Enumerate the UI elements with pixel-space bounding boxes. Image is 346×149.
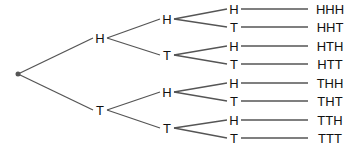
node-level3-t: T (230, 94, 238, 109)
edge-l1-to-l2 (107, 38, 160, 55)
edge-l2-to-l3 (174, 55, 227, 64)
outcome-label: HHH (316, 2, 344, 17)
edge-l2-to-l3 (174, 92, 227, 101)
node-level2-h: H (162, 12, 171, 27)
outcome-label: THT (317, 94, 342, 109)
tree-nodes: HTHTHTHHHHTHHTHHTHTHTTHTHHTTHTHTTHTTTT (16, 2, 345, 146)
outcome-label: TTH (317, 113, 342, 128)
tree-edges (18, 9, 308, 138)
probability-tree-diagram: HTHTHTHHHHTHHTHHTHTHTTHTHHTTHTHTTHTTTT (0, 0, 346, 149)
node-level3-h: H (229, 39, 238, 54)
node-level3-t: T (230, 131, 238, 146)
edge-l2-to-l3 (174, 83, 227, 92)
outcome-label: HTH (317, 39, 344, 54)
edge-l2-to-l3 (174, 46, 227, 55)
edge-l2-to-l3 (174, 120, 227, 128)
edge-l1-to-l2 (107, 19, 160, 38)
edge-l2-to-l3 (174, 9, 227, 19)
node-level1-t: T (96, 103, 104, 118)
edge-root-to-l1 (18, 74, 93, 110)
node-level2-h: H (162, 85, 171, 100)
edge-l2-to-l3 (174, 128, 227, 138)
node-level3-t: T (230, 57, 238, 72)
edge-root-to-l1 (18, 38, 93, 74)
node-level3-h: H (229, 113, 238, 128)
node-level2-t: T (163, 48, 171, 63)
edge-l2-to-l3 (174, 19, 227, 27)
outcome-label: TTT (318, 131, 342, 146)
node-level3-t: T (230, 20, 238, 35)
node-level3-h: H (229, 2, 238, 17)
outcome-label: HTT (317, 57, 342, 72)
node-level1-h: H (95, 31, 104, 46)
node-level3-h: H (229, 76, 238, 91)
outcome-label: HHT (317, 20, 344, 35)
outcome-label: THH (317, 76, 344, 91)
root-node-dot (16, 72, 21, 77)
node-level2-t: T (163, 121, 171, 136)
edge-l1-to-l2 (107, 92, 160, 110)
edge-l1-to-l2 (107, 110, 160, 128)
